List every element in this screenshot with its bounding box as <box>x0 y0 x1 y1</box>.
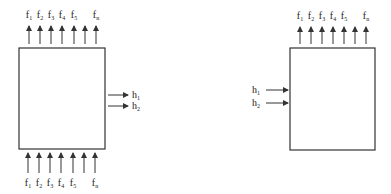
diagram-canvas: f1f2f3f4f5fnf1f2f3f4f5fnh1h2 f1f2f3f4f5f… <box>0 0 391 194</box>
output-label-3: f3 <box>48 9 54 21</box>
input-label-1: f1 <box>25 177 31 189</box>
input-label-3: f3 <box>47 177 53 189</box>
output-label-n: fn <box>93 9 99 21</box>
input-label-5: f5 <box>70 177 76 189</box>
output-label-5: f5 <box>71 9 77 21</box>
output-label-1: f1 <box>26 9 32 21</box>
input-label-n: fn <box>92 177 98 189</box>
output-label-1: f1 <box>297 10 303 22</box>
output-label-5: f5 <box>341 10 347 22</box>
system-box <box>19 48 105 149</box>
input-label-2: f2 <box>36 177 42 189</box>
output-label-4: f4 <box>330 10 336 22</box>
output-label-2: f2 <box>37 9 43 21</box>
left-system: f1f2f3f4f5fnf1f2f3f4f5fnh1h2 <box>19 9 140 189</box>
output-label-4: f4 <box>59 9 65 21</box>
side-output-label-2: h2 <box>132 100 140 112</box>
output-label-3: f3 <box>319 10 325 22</box>
side-input-label-2: h2 <box>252 97 260 109</box>
system-box <box>290 48 375 150</box>
input-label-4: f4 <box>58 177 64 189</box>
output-label-2: f2 <box>308 10 314 22</box>
right-system: f1f2f3f4f5fnh1h2 <box>252 10 375 150</box>
output-label-n: fn <box>363 10 369 22</box>
side-input-label-1: h1 <box>252 84 260 96</box>
